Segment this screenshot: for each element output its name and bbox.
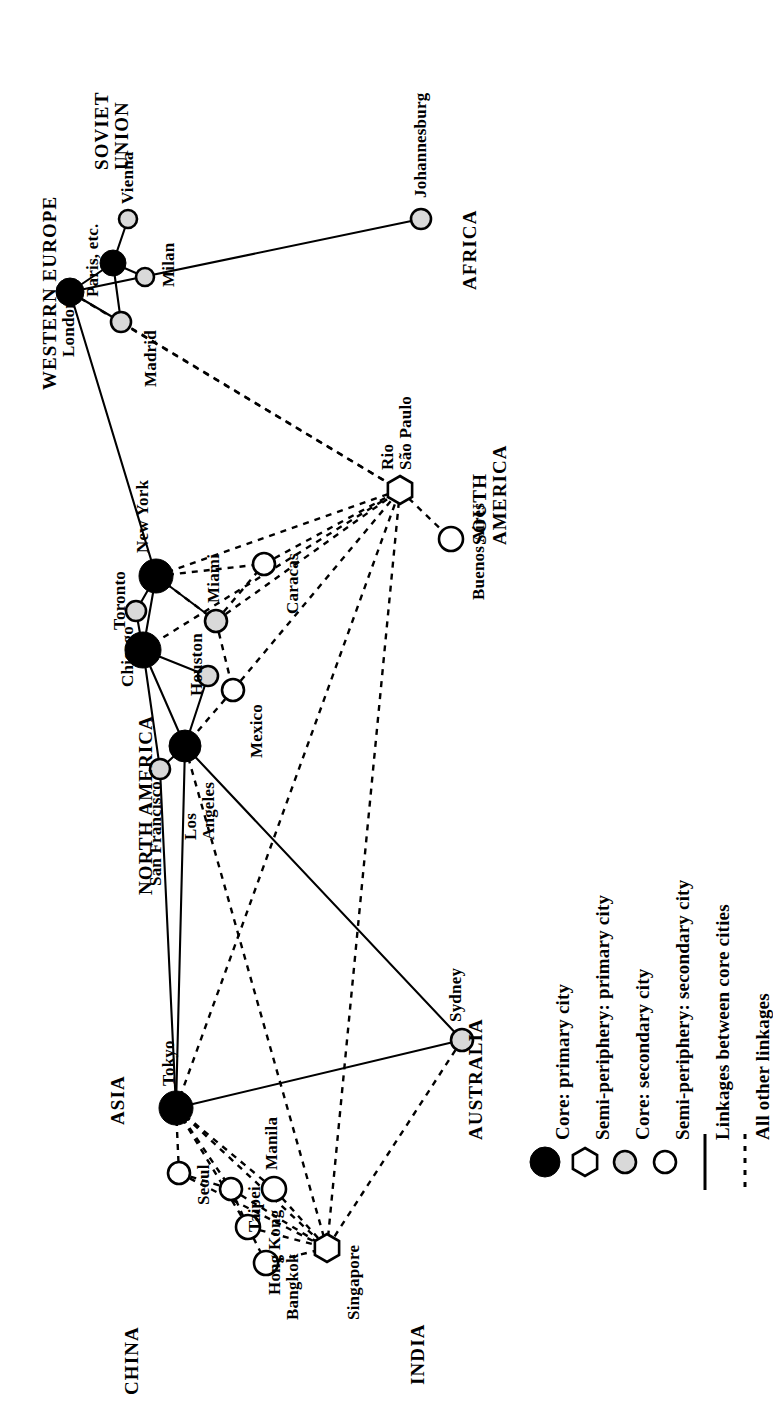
city-label-caracas: Caracas	[284, 553, 301, 614]
city-label-paris: Paris, etc.	[84, 224, 101, 297]
node-miami[interactable]	[205, 610, 227, 632]
node-rio-sao-paulo[interactable]	[388, 476, 412, 504]
region-label-china: CHINA	[122, 1326, 141, 1395]
legend-label-5-line: All other linkages	[753, 993, 772, 1140]
city-label-johannesburg-line: Johannesburg	[412, 93, 429, 198]
legend-symbol-filled-circle[interactable]	[530, 1147, 560, 1177]
city-label-paris-line: Paris, etc.	[84, 224, 101, 297]
city-label-caracas-line: Caracas	[284, 553, 301, 614]
region-label-south-america-line: AMERICA	[490, 444, 510, 545]
dashed-link-sydney-singapore	[327, 1040, 462, 1248]
node-vienna[interactable]	[119, 210, 137, 228]
region-label-western-europe-line: WESTERN EUROPE	[40, 196, 59, 390]
city-label-hong-kong-line: Hong Kong	[266, 1210, 283, 1295]
city-label-sydney: Sydney	[447, 968, 464, 1022]
legend-symbol-shaded-circle[interactable]	[614, 1151, 636, 1173]
city-label-chicago: Chicago	[119, 626, 136, 687]
city-label-singapore: Singapore	[345, 1245, 362, 1320]
node-mexico[interactable]	[222, 679, 244, 701]
city-label-seoul-line: Seoul	[195, 1164, 212, 1205]
region-label-india-line: INDIA	[408, 1324, 427, 1385]
node-toronto[interactable]	[126, 601, 146, 621]
city-label-singapore-line: Singapore	[345, 1245, 362, 1320]
node-singapore[interactable]	[315, 1234, 339, 1262]
region-label-north-america: NORTH AMERICA	[136, 715, 155, 895]
city-label-seoul: Seoul	[195, 1164, 212, 1205]
region-label-asia-line: ASIA	[108, 1075, 127, 1125]
city-label-los-angeles-line: Los	[182, 782, 200, 840]
city-label-rio-sao-paulo-line: São Paulo	[397, 396, 415, 470]
region-label-south-america: SOUTHAMERICA	[470, 444, 510, 545]
city-label-toronto: Toronto	[111, 571, 128, 630]
city-label-toronto-line: Toronto	[111, 571, 128, 630]
legend-label-3-line: Semi-periphery: secondary city	[673, 880, 692, 1140]
node-tokyo[interactable]	[159, 1091, 193, 1125]
region-label-africa-line: AFRICA	[460, 210, 479, 291]
city-label-london-line: London	[60, 299, 77, 357]
region-label-soviet-union-line: UNION	[112, 92, 132, 170]
city-label-manila-line: Manila	[263, 1117, 280, 1170]
dashed-link-rio-sao-paulo-singapore	[327, 490, 400, 1248]
city-label-madrid: Madrid	[142, 330, 159, 387]
solid-link-los-angeles-sydney	[185, 746, 462, 1040]
city-label-madrid-line: Madrid	[142, 330, 159, 387]
city-label-los-angeles: LosAngeles	[182, 782, 218, 840]
region-label-asia: ASIA	[108, 1075, 127, 1125]
node-new-york[interactable]	[139, 559, 173, 593]
region-label-north-america-line: NORTH AMERICA	[136, 715, 155, 895]
city-label-manila: Manila	[263, 1117, 280, 1170]
region-label-australia-line: AUSTRALIA	[466, 1018, 485, 1140]
edge-layer	[0, 0, 773, 1401]
legend-label-2-line: Core: secondary city	[633, 969, 652, 1140]
legend-label-1: Semi-periphery: primary city	[593, 895, 612, 1140]
city-label-taipei-line: Taipei	[246, 1186, 263, 1232]
node-caracas[interactable]	[253, 553, 275, 575]
node-buenos-aires[interactable]	[439, 527, 463, 551]
node-johannesburg[interactable]	[411, 209, 431, 229]
city-label-bangkok: Bangkok	[284, 1253, 301, 1320]
city-label-los-angeles-line: Angeles	[200, 782, 218, 840]
city-label-new-york-line: New York	[134, 480, 151, 553]
legend-symbol-open-circle[interactable]	[654, 1151, 676, 1173]
city-label-sydney-line: Sydney	[447, 968, 464, 1022]
city-label-houston-line: Houston	[188, 633, 205, 696]
city-label-rio-sao-paulo: RioSão Paulo	[379, 396, 415, 470]
node-los-angeles[interactable]	[169, 730, 201, 762]
city-label-tokyo: Tokyo	[160, 1040, 177, 1086]
region-label-china-line: CHINA	[122, 1326, 141, 1395]
region-label-soviet-union-line: SOVIET	[92, 92, 112, 170]
city-label-new-york: New York	[134, 480, 151, 553]
city-label-hong-kong: Hong Kong	[266, 1210, 283, 1295]
node-paris[interactable]	[100, 250, 126, 276]
legend-label-0: Core: primary city	[553, 984, 572, 1140]
region-label-soviet-union: SOVIETUNION	[92, 92, 132, 170]
city-label-taipei: Taipei	[246, 1186, 263, 1232]
city-label-milan-line: Milan	[160, 243, 177, 287]
node-seoul[interactable]	[168, 1162, 190, 1184]
node-milan[interactable]	[136, 268, 154, 286]
city-label-houston: Houston	[188, 633, 205, 696]
city-label-miami: Miami	[205, 554, 222, 603]
legend-label-1-line: Semi-periphery: primary city	[593, 895, 612, 1140]
city-label-bangkok-line: Bangkok	[284, 1253, 301, 1320]
region-label-india: INDIA	[408, 1324, 427, 1385]
city-label-milan: Milan	[160, 243, 177, 287]
region-label-south-america-line: SOUTH	[470, 444, 490, 545]
legend-symbol-layer	[530, 1134, 745, 1190]
legend-label-5: All other linkages	[753, 993, 772, 1140]
legend-label-3: Semi-periphery: secondary city	[673, 880, 692, 1140]
node-madrid[interactable]	[111, 312, 131, 332]
region-label-australia: AUSTRALIA	[466, 1018, 485, 1140]
node-manila[interactable]	[262, 1177, 286, 1201]
city-label-mexico: Mexico	[248, 704, 265, 758]
city-label-chicago-line: Chicago	[119, 626, 136, 687]
region-label-western-europe: WESTERN EUROPE	[40, 196, 59, 390]
solid-link-tokyo-sydney	[176, 1040, 462, 1108]
region-label-africa: AFRICA	[460, 210, 479, 291]
node-taipei[interactable]	[220, 1178, 242, 1200]
city-label-miami-line: Miami	[205, 554, 222, 603]
network-map-figure: LondonParis, etc.ViennaMilanMadridJohann…	[0, 0, 773, 1401]
dashed-link-miami-rio-sao-paulo	[216, 490, 400, 621]
city-label-johannesburg: Johannesburg	[412, 93, 429, 198]
legend-symbol-hexagon[interactable]	[573, 1148, 597, 1176]
